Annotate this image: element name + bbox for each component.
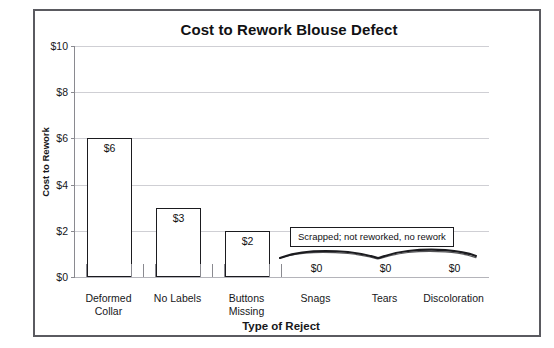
y-axis-tick-mark [71, 185, 75, 186]
category-label-line: No Labels [154, 292, 201, 305]
bar-value-label: $3 [157, 212, 200, 224]
gridline [75, 138, 489, 139]
chart-screenshot: Cost to Rework Blouse Defect Cost to Rew… [0, 0, 554, 348]
category-label-line: Deformed [85, 292, 131, 305]
bar: $3 [156, 208, 201, 277]
x-axis-category-label: No Labels [154, 292, 201, 305]
y-axis-tick-label: $0 [56, 271, 68, 283]
y-axis-tick-mark [71, 138, 75, 139]
category-label-line: Collar [85, 305, 131, 318]
bar: $6 [87, 138, 132, 277]
annotation-callout: Scrapped; not reworked, no rework [290, 227, 454, 247]
bar-value-label: $6 [88, 142, 131, 154]
y-axis-tick-label: $10 [50, 40, 68, 52]
x-axis-category-label: Discoloration [423, 292, 484, 305]
x-axis-category-label: Snags [301, 292, 331, 305]
category-label-line: Missing [229, 305, 265, 318]
gridline [75, 46, 489, 47]
gridline [75, 277, 489, 278]
gridline [75, 92, 489, 93]
y-axis-tick-label: $6 [56, 132, 68, 144]
x-axis-category-label: ButtonsMissing [229, 292, 265, 318]
y-axis-tick-label: $8 [56, 86, 68, 98]
x-axis-category-label: Tears [372, 292, 398, 305]
x-axis-title: Type of Reject [74, 320, 488, 332]
gridline [75, 185, 489, 186]
bar-value-label: $2 [226, 235, 269, 247]
y-axis-tick-mark [71, 231, 75, 232]
annotation-brace-icon [278, 249, 478, 269]
y-axis-tick-label: $4 [56, 179, 68, 191]
x-axis-category-label: DeformedCollar [85, 292, 131, 318]
y-axis-tick-label: $2 [56, 225, 68, 237]
bar: $2 [225, 231, 270, 277]
category-label-line: Buttons [229, 292, 265, 305]
category-label-line: Tears [372, 292, 398, 305]
y-axis-tick-mark [71, 277, 75, 278]
chart-title: Cost to Rework Blouse Defect [35, 21, 543, 38]
cut-off-text-sliver [0, 0, 554, 7]
y-axis-title: Cost to Rework [40, 127, 51, 197]
y-axis-tick-mark [71, 46, 75, 47]
chart-frame: Cost to Rework Blouse Defect Cost to Rew… [33, 9, 541, 337]
category-label-line: Discoloration [423, 292, 484, 305]
category-label-line: Snags [301, 292, 331, 305]
y-axis-tick-mark [71, 92, 75, 93]
